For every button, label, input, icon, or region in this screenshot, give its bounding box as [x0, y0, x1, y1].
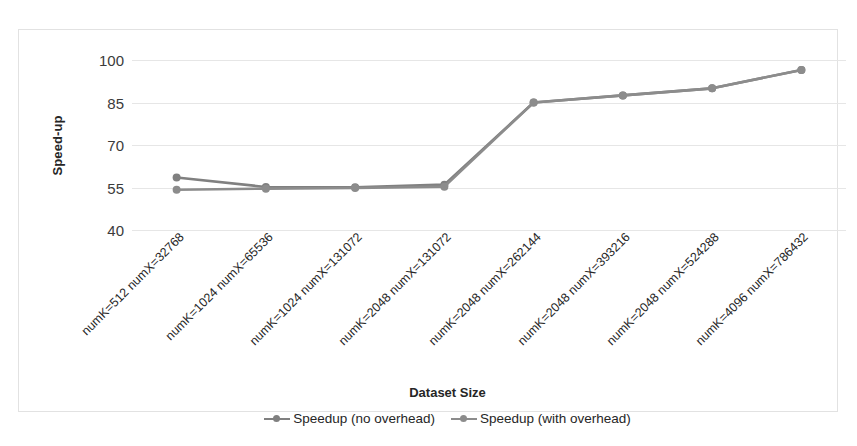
y-tick-label: 85 — [107, 95, 124, 110]
y-axis-tick-labels: 10085705540 — [74, 60, 130, 230]
x-tick-label: numK=4096 numX=786432 — [660, 230, 811, 381]
legend-label: Speedup (no overhead) — [293, 411, 435, 426]
legend-marker-icon — [451, 413, 477, 425]
series-line-1 — [177, 70, 802, 190]
x-axis-title: Dataset Size — [19, 385, 857, 400]
data-point-marker — [173, 186, 181, 194]
x-axis-title-label: Dataset Size — [409, 385, 486, 400]
legend-item[interactable]: Speedup (no overhead) — [264, 411, 435, 426]
x-tick-label: numK=512 numX=32768 — [35, 230, 186, 381]
chart-frame: Speed-up 10085705540 numK=512 numX=32768… — [18, 29, 838, 412]
x-tick-label: numK=2048 numX=393216 — [481, 230, 632, 381]
y-tick-label: 55 — [107, 180, 124, 195]
legend-label: Speedup (with overhead) — [480, 411, 631, 426]
y-axis-title: Speed-up — [45, 90, 69, 200]
data-point-marker — [530, 99, 538, 107]
x-axis-tick-labels: numK=512 numX=32768numK=1024 numX=65536n… — [132, 230, 846, 380]
y-tick-label: 100 — [99, 53, 124, 68]
y-axis-title-label: Speed-up — [50, 115, 65, 175]
x-tick-label: numK=1024 numX=131072 — [214, 230, 365, 381]
data-point-marker — [797, 66, 805, 74]
series-lines — [132, 60, 846, 230]
data-point-marker — [173, 174, 181, 182]
x-tick-label: numK=2048 numX=524288 — [571, 230, 722, 381]
plot-area — [132, 60, 846, 230]
x-tick-label: numK=2048 numX=262144 — [392, 230, 543, 381]
y-tick-label: 40 — [107, 223, 124, 238]
data-point-marker — [351, 184, 359, 192]
data-point-marker — [708, 84, 716, 92]
x-tick-label: numK=1024 numX=65536 — [124, 230, 275, 381]
y-tick-label: 70 — [107, 138, 124, 153]
x-tick-label: numK=2048 numX=131072 — [303, 230, 454, 381]
legend-item[interactable]: Speedup (with overhead) — [451, 411, 631, 426]
data-point-marker — [440, 183, 448, 191]
chart-legend: Speedup (no overhead)Speedup (with overh… — [19, 411, 857, 426]
data-point-marker — [619, 91, 627, 99]
legend-marker-icon — [264, 413, 290, 425]
data-point-marker — [262, 185, 270, 193]
